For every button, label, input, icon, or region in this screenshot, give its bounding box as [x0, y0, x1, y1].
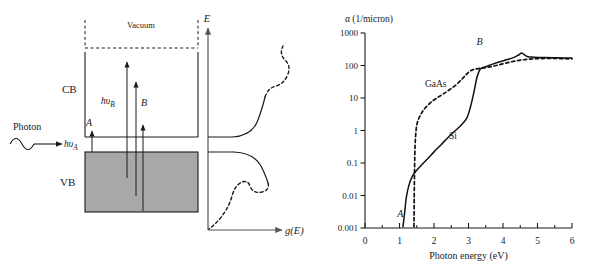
dos-vb-dashed [209, 182, 268, 230]
hv-a-label: hυA [64, 139, 78, 152]
transition-b-label: B [141, 97, 147, 108]
vacuum-label: Vacuum [127, 20, 155, 30]
chart-y-tick-label: 0.01 [342, 191, 358, 201]
photon-wave-icon [10, 139, 34, 150]
chart-y-tick-label: 0.1 [347, 158, 358, 168]
hv-b-label: hυB [101, 96, 115, 109]
chart-y-tick-label: 1000 [340, 28, 359, 38]
transition-a-label: A [85, 117, 93, 128]
figure-root: VacuumCBVBPhotonhυAAhυBBEg(E)0.0010.010.… [0, 0, 589, 272]
chart-x-tick-label: 6 [570, 236, 575, 246]
dos-cb-dashed [265, 46, 289, 97]
vb-label: VB [60, 176, 75, 188]
chart-x-tick-label: 0 [363, 236, 368, 246]
figure-canvas: VacuumCBVBPhotonhυAAhυBBEg(E)0.0010.010.… [0, 0, 589, 272]
chart-x-tick-label: 1 [397, 236, 402, 246]
chart-x-tick-label: 4 [501, 236, 506, 246]
chart-annotation-b: B [476, 36, 482, 47]
valence-band-box [85, 152, 198, 212]
energy-axis-label: E [203, 13, 211, 24]
chart-y-tick-label: 1 [354, 126, 359, 136]
chart-annotation-si: Si [449, 131, 457, 141]
chart-annotation-a: A [396, 208, 404, 219]
chart-y-tick-label: 10 [349, 93, 359, 103]
chart-x-tick-label: 5 [535, 236, 540, 246]
cb-label: CB [62, 83, 77, 95]
chart-y-axis-title: α (1/micron) [345, 14, 393, 25]
chart-x-axis-title: Photon energy (eV) [429, 250, 508, 262]
photon-label: Photon [13, 121, 41, 132]
dos-cb-solid [208, 97, 265, 137]
chart-x-tick-label: 3 [466, 236, 471, 246]
dos-vb-solid [208, 152, 268, 183]
chart-x-tick-label: 2 [432, 236, 437, 246]
dos-axis-label: g(E) [285, 225, 304, 237]
chart-y-tick-label: 100 [345, 61, 359, 71]
chart-annotation-gaas: GaAs [425, 79, 447, 89]
chart-y-tick-label: 0.001 [338, 223, 358, 233]
